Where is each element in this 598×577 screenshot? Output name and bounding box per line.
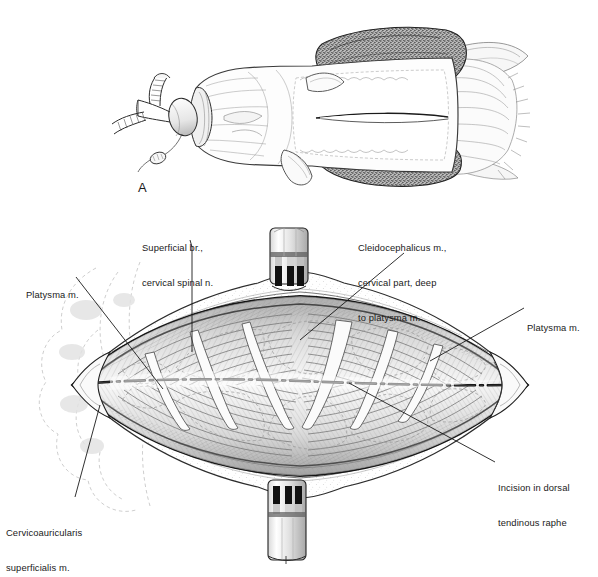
label-incision-raphe: Incision in dorsal tendinous raphe bbox=[498, 459, 570, 552]
wound-cavity bbox=[72, 296, 528, 476]
label-cervicoauricularis: Cervicoauricularis superficialis m. bbox=[6, 504, 82, 577]
label-line: Platysma m. bbox=[26, 289, 79, 301]
label-line: Cervicoauricularis bbox=[6, 527, 82, 539]
label-line: Cleidocephalicus m., bbox=[358, 242, 447, 254]
panel-b-artwork bbox=[39, 228, 528, 565]
endotracheal-tube bbox=[112, 74, 201, 173]
label-line: Platysma m. bbox=[527, 322, 580, 334]
panel-a-artwork bbox=[112, 27, 530, 186]
clamp-jaws bbox=[273, 486, 302, 514]
label-line: cervical spinal n. bbox=[142, 277, 213, 289]
clamp-jaws bbox=[275, 256, 304, 286]
label-line: tendinous raphe bbox=[498, 517, 570, 529]
dog-head-neck bbox=[192, 58, 459, 185]
towel-clamp-dorsal bbox=[270, 228, 308, 291]
label-line: Superficial br., bbox=[142, 242, 213, 254]
label-line: Incision in dorsal bbox=[498, 482, 570, 494]
label-line: superficialis m. bbox=[6, 562, 82, 574]
label-line: cervical part, deep bbox=[358, 277, 447, 289]
label-platysma-right: Platysma m. bbox=[527, 299, 580, 357]
panel-a-letter: A bbox=[138, 180, 147, 195]
label-superficial-branch: Superficial br., cervical spinal n. bbox=[142, 219, 213, 312]
towel-clamp-ventral bbox=[268, 480, 306, 564]
label-line: to platysma m. bbox=[358, 312, 447, 324]
label-platysma-left: Platysma m. bbox=[26, 266, 79, 324]
label-cleidocephalicus: Cleidocephalicus m., cervical part, deep… bbox=[358, 219, 447, 347]
